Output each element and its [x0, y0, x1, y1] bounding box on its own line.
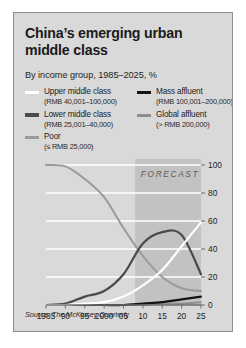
- chart-subtitle: By income group, 1985–2025, %: [25, 70, 225, 80]
- legend-item-mass-affluent: Mass affluent (RMB 100,001–200,000): [134, 87, 230, 107]
- legend-label: Poor: [44, 132, 134, 142]
- x-axis-tick-label: 25: [196, 311, 206, 321]
- chart-plot: 020406080100 1985909520000510152025 FORE…: [14, 153, 233, 332]
- line-swatch-upper-middle-class: [25, 91, 39, 94]
- y-axis-tick-label: 80: [208, 188, 218, 198]
- y-axis-tick-label: 40: [208, 244, 218, 254]
- legend-label: Upper middle class: [44, 87, 134, 97]
- legend-column-left: Upper middle class (RMB 40,001–100,000) …: [22, 87, 134, 155]
- forecast-label: FORECAST: [141, 169, 199, 179]
- chart-legend: Upper middle class (RMB 40,001–100,000) …: [22, 87, 228, 151]
- chart-panel: China’s emerging urban middle class By i…: [13, 12, 233, 332]
- legend-sublabel: (≤ RMB 25,000): [44, 142, 134, 152]
- line-swatch-lower-middle-class: [25, 113, 39, 117]
- y-axis-tick-label: 60: [208, 216, 218, 226]
- legend-sublabel: (RMB 100,001–200,000): [156, 97, 230, 107]
- legend-sublabel: (RMB 40,001–100,000): [44, 97, 134, 107]
- y-axis-tick-label: 100: [208, 160, 222, 170]
- line-swatch-mass-affluent: [137, 91, 151, 95]
- legend-item-poor: Poor (≤ RMB 25,000): [22, 132, 134, 152]
- legend-label: Global affluent: [156, 110, 230, 120]
- page-title: China’s emerging urban middle class: [25, 25, 223, 60]
- line-swatch-global-affluent: [137, 114, 151, 117]
- line-chart-svg: 020406080100 1985909520000510152025 FORE…: [14, 153, 233, 332]
- legend-column-right: Mass affluent (RMB 100,001–200,000) Glob…: [134, 87, 230, 132]
- legend-item-global-affluent: Global affluent (> RMB 200,000): [134, 110, 230, 130]
- y-axis-tick-label: 20: [208, 272, 218, 282]
- legend-item-lower-middle-class: Lower middle class (RMB 25,001–40,000): [22, 110, 134, 130]
- x-axis-tick-label: 15: [158, 311, 168, 321]
- x-axis-tick-label: 20: [177, 311, 187, 321]
- y-axis-tick-label: 0: [208, 300, 213, 310]
- y-axis-labels: 020406080100: [201, 160, 222, 310]
- legend-label: Lower middle class: [44, 110, 134, 120]
- axes: [46, 305, 201, 309]
- legend-sublabel: (RMB 25,001–40,000): [44, 120, 134, 130]
- legend-label: Mass affluent: [156, 87, 230, 97]
- legend-item-upper-middle-class: Upper middle class (RMB 40,001–100,000): [22, 87, 134, 107]
- legend-sublabel: (> RMB 200,000): [156, 120, 230, 130]
- line-swatch-poor: [25, 136, 39, 139]
- chart-source: Source: The McKinsey Quarterly: [25, 310, 129, 319]
- x-axis-tick-label: 10: [138, 311, 148, 321]
